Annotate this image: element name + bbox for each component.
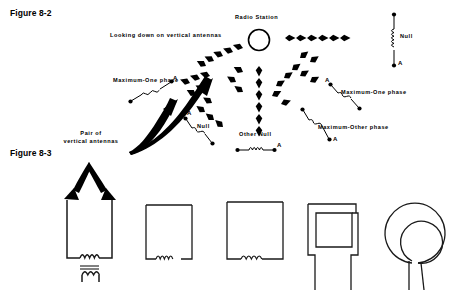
- radio-station-circle: [249, 30, 270, 51]
- figure-8-2-label: Figure 8-2: [10, 8, 52, 18]
- lobe-outer-right-fan: [298, 49, 321, 85]
- terminal-letter-max-one-left: A: [173, 75, 177, 81]
- label-null-right: Null: [400, 33, 413, 40]
- terminal-letter-null-right: A: [398, 60, 402, 66]
- label-null-left: Null: [197, 123, 210, 130]
- pair-label-line2: vertical antennas: [44, 138, 138, 145]
- loop-antenna-4: [308, 204, 358, 290]
- antenna-pair-other-null: [235, 148, 276, 153]
- label-maximum-other-phase: Maximum-Other phase: [318, 124, 389, 131]
- loop-antenna-1: [67, 200, 112, 282]
- terminal-letter-null-left: A: [187, 110, 191, 116]
- label-maximum-one-phase-left: Maximum-One phase: [113, 77, 179, 84]
- loop-antenna-3: [227, 202, 283, 259]
- terminal-letter-max-one-right: A: [325, 77, 329, 83]
- lobe-inner-right: [270, 61, 302, 107]
- antenna-pair-max-one-phase-right: [328, 82, 361, 110]
- callout-arrows-fig83: [64, 162, 116, 200]
- label-other-null: Other Null: [239, 131, 272, 138]
- pair-label-line1: Pair of: [52, 130, 130, 137]
- antenna-pair-null-right: [392, 12, 397, 67]
- lobe-inner-left: [225, 64, 245, 95]
- loop-antenna-2: [146, 205, 192, 259]
- lobe-upper-left-fan: [195, 42, 244, 69]
- lobe-center-downward: [256, 66, 263, 137]
- terminal-letter-max-other: A: [333, 136, 337, 142]
- looking-down-caption: Looking down on vertical antennas: [110, 32, 222, 39]
- antenna-diagram-artwork: [0, 0, 460, 298]
- loop-antenna-5: [385, 203, 445, 290]
- lobe-right-horizontal: [285, 35, 351, 42]
- terminal-letter-other-null: A: [277, 142, 281, 148]
- callout-arrows-fig82: [129, 76, 213, 155]
- figure-8-3-label: Figure 8-3: [10, 148, 52, 158]
- label-maximum-one-phase-right: Maximum-One phase: [341, 89, 407, 96]
- antenna-pair-null-left: [183, 116, 214, 145]
- radio-station-label: Radio Station: [235, 14, 278, 21]
- diagram-canvas: Figure 8-2 Figure 8-3 Looking down on ve…: [0, 0, 460, 298]
